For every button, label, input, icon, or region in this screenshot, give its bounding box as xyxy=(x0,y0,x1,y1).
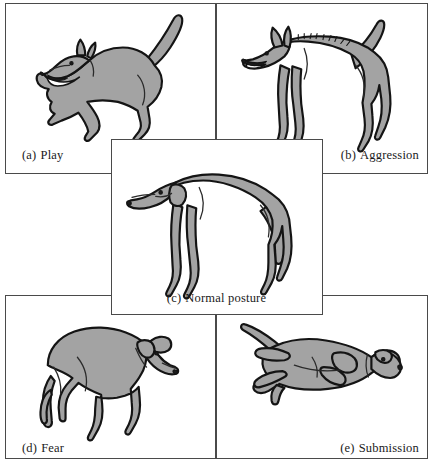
panel-normal-posture xyxy=(111,139,323,315)
caption-tag-a: (a) xyxy=(22,148,36,162)
caption-play: (a)Play xyxy=(22,148,64,163)
caption-tag-d: (d) xyxy=(22,441,37,455)
caption-normal-posture: (c)Normal posture xyxy=(0,291,433,306)
caption-label-d: Fear xyxy=(41,441,64,455)
caption-label-a: Play xyxy=(40,148,63,162)
illustration-submission xyxy=(217,296,427,458)
caption-tag-b: (b) xyxy=(341,148,356,162)
caption-label-c: Normal posture xyxy=(185,291,266,305)
caption-label-e: Submission xyxy=(359,441,419,455)
illustration-normal-posture xyxy=(112,140,322,314)
dog-posture-figure: (a)Play (b)Aggression (c)Normal posture … xyxy=(0,0,433,465)
caption-tag-e: (e) xyxy=(340,441,354,455)
caption-label-b: Aggression xyxy=(360,148,419,162)
caption-submission: (e)Submission xyxy=(340,441,419,456)
panel-submission xyxy=(216,295,428,459)
illustration-fear xyxy=(6,296,215,458)
caption-tag-c: (c) xyxy=(167,291,181,305)
panel-fear xyxy=(5,295,216,459)
caption-fear: (d)Fear xyxy=(22,441,64,456)
caption-aggression: (b)Aggression xyxy=(341,148,419,163)
